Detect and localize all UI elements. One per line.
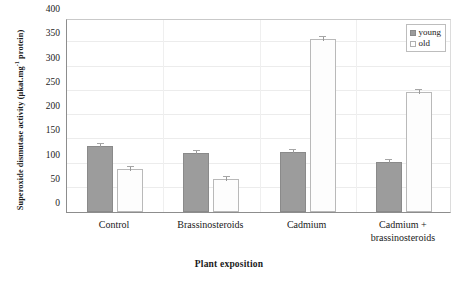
x-axis-category-line: Cadmium [259,219,355,232]
plot-area: youngold [66,19,451,213]
y-axis-tick-labels: 050100150200250300350400 [30,19,64,213]
x-axis-category-label: Control [66,219,162,232]
x-axis-category-line: Control [66,219,162,232]
bar-old [117,169,143,212]
legend: youngold [406,24,447,52]
y-axis-tick-label: 400 [46,4,60,14]
y-axis-tick-label: 300 [46,53,60,63]
x-axis-category-labels: ControlBrassinosteroidsCadmiumCadmium +b… [66,219,451,255]
bar-young [376,162,402,212]
x-axis-title: Plant exposition [0,259,458,269]
y-axis-tick-label: 200 [46,101,60,111]
error-bar-cap [223,176,230,177]
y-axis-title-main: Superoxide dismutase activity (µkat.mg [16,66,25,210]
legend-item: young [410,27,442,38]
x-axis-category-line: Brassinosteroids [162,219,258,232]
legend-item: old [410,38,442,49]
legend-label: young [419,27,442,38]
bar-old [310,39,336,212]
error-bar-cap [289,149,296,150]
bar-group [163,20,259,212]
error-bar-cap [415,89,422,90]
error-bar-cap [385,159,392,160]
legend-swatch-icon [410,30,416,36]
y-axis-title: Superoxide dismutase activity (µkat.mg-1… [8,15,26,225]
bar-young [280,152,306,212]
x-axis-category-line: brassinosteroids [355,232,451,245]
x-axis-category-label: Cadmium [259,219,355,232]
y-axis-tick-label: 350 [46,28,60,38]
legend-swatch-icon [410,41,416,47]
error-bar-cap [319,36,326,37]
error-bar-cap [193,150,200,151]
y-axis-tick-label: 100 [46,150,60,160]
bar-chart-figure: Superoxide dismutase activity (µkat.mg-1… [0,0,458,281]
bar-old [406,92,432,212]
error-bar-cap [127,166,134,167]
legend-label: old [419,38,431,49]
bar-old [213,179,239,212]
y-axis-tick-label: 50 [51,174,61,184]
y-axis-title-superscript: -1 [14,61,20,66]
x-axis-category-label: Brassinosteroids [162,219,258,232]
y-axis-tick-label: 150 [46,125,60,135]
y-axis-tick-label: 0 [55,198,60,208]
bar-group [260,20,356,212]
x-axis-category-label: Cadmium +brassinosteroids [355,219,451,244]
y-axis-title-tail: protein) [16,30,25,61]
bar-young [87,146,113,212]
bar-group [67,20,163,212]
y-axis-tick-label: 250 [46,77,60,87]
x-axis-category-line: Cadmium + [355,219,451,232]
bar-young [183,153,209,212]
error-bar-cap [97,143,104,144]
